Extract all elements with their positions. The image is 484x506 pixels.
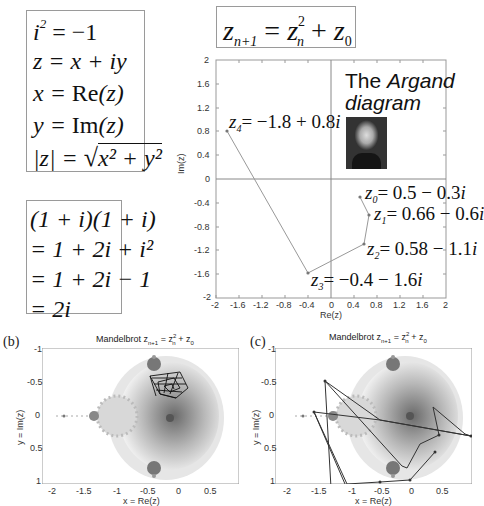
- mandel-c-xtick: 0: [409, 486, 414, 496]
- argand-xtick: 0.4: [347, 300, 360, 310]
- annotation-z2: z2= 0.58 − 1.1i: [367, 238, 477, 261]
- mandel-c-ytick: 0.5: [264, 443, 277, 453]
- mandel-b-xtick: 0.5: [204, 486, 217, 496]
- argand-xtick: 1.2: [393, 300, 406, 310]
- mandel-c-ytick: -1: [268, 344, 276, 354]
- annotation-z1: z1= 0.66 − 0.6i: [374, 203, 484, 226]
- mandel-b-xtick: -1.5: [76, 486, 92, 496]
- mandel-b-xtick: -0.5: [140, 486, 156, 496]
- mandel-b-xtick: -2: [48, 486, 56, 496]
- mandel-b-ytick: 1: [36, 476, 41, 486]
- argand-ytick: -2: [203, 292, 211, 302]
- argand-xtick: -0.4: [299, 300, 315, 310]
- mandel-b-ytick: 0: [35, 410, 40, 420]
- argand-ylabel: Im(z): [176, 154, 186, 175]
- mandel-b-image: [42, 348, 239, 484]
- argand-xtick: -1.6: [230, 300, 246, 310]
- argand-ytick: 0.8: [197, 126, 210, 136]
- argand-ytick: 1.2: [197, 103, 210, 113]
- argand-ytick: 1.6: [197, 79, 210, 89]
- annotation-z4: z4= −1.8 + 0.8i: [229, 111, 341, 134]
- argand-ytick: -1.2: [194, 245, 210, 255]
- argand-xtick: 2: [443, 300, 448, 310]
- argand-xtick: -1.2: [253, 300, 269, 310]
- argand-title: The Arganddiagram: [345, 70, 455, 114]
- mandel-c-ytick: 1: [270, 476, 275, 486]
- mandel-c-xtick: -1: [348, 486, 356, 496]
- argand-xtick: 0.8: [370, 300, 383, 310]
- mandel-c-xtick: 0.5: [436, 486, 449, 496]
- argand-ytick: 2: [204, 55, 209, 65]
- argand-xtick: 1.6: [416, 300, 429, 310]
- portrait-body: [352, 153, 381, 169]
- argand-ytick: -1.6: [194, 269, 210, 279]
- mandel-b-xlabel: x = Re(z): [123, 496, 160, 506]
- mandel-b-ytick: -0.5: [27, 377, 43, 387]
- mandel-c-ytick: -0.5: [261, 377, 277, 387]
- mandel-b-ytick: 0.5: [30, 443, 43, 453]
- argand-ytick: -0.4: [194, 198, 210, 208]
- panel-label-b: (b): [3, 334, 19, 350]
- mandel-b-ylabel: y = Im(z): [15, 410, 25, 445]
- argand-xtick: 0: [329, 300, 334, 310]
- mandel-c-ytick: 0: [269, 410, 274, 420]
- argand-xlabel: Re(z): [320, 310, 342, 320]
- mandel-b-xtick: -1: [113, 486, 121, 496]
- panel-label-c: (c): [250, 334, 266, 350]
- annotation-z3: z3= −0.4 − 1.6i: [311, 269, 423, 292]
- mandel-c-image: [275, 348, 472, 484]
- mandel-b-title: Mandelbrot zn+1 = z2n + z0: [96, 333, 194, 346]
- mandel-c-xtick: -0.5: [374, 486, 390, 496]
- mandel-c-xlabel: x = Re(z): [355, 496, 392, 506]
- argand-xtick: -0.8: [276, 300, 292, 310]
- mandel-b-xtick: 0: [176, 486, 181, 496]
- mandel-c-ylabel: y = Im(z): [251, 410, 261, 445]
- argand-ytick: 0.4: [197, 150, 210, 160]
- mandel-b-ytick: -1: [34, 344, 42, 354]
- mandel-c-title: Mandelbrot zn+1 = z2n + z0: [329, 331, 427, 344]
- annotation-z0: z0= 0.5 − 0.3i: [365, 182, 466, 205]
- argand-ytick: -0.8: [194, 222, 210, 232]
- argand-xtick: -2: [211, 300, 219, 310]
- mandel-c-xtick: -1.5: [311, 486, 327, 496]
- argand-ytick: 0: [205, 174, 210, 184]
- argand-portrait: [346, 117, 387, 169]
- mandel-c-xtick: -2: [283, 486, 291, 496]
